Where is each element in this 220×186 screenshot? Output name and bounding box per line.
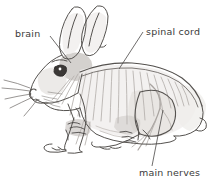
nose-mark (31, 89, 36, 90)
whisker (5, 94, 31, 99)
hind-foot-toe2 (110, 147, 121, 149)
whisker (10, 97, 33, 108)
eye-highlight (59, 68, 62, 71)
whisker (2, 88, 30, 91)
fur-accent (126, 141, 136, 142)
chest-line (68, 104, 74, 120)
chin-line (44, 103, 58, 110)
forepaw-outline (44, 144, 66, 152)
rump-shade (176, 84, 206, 131)
label-brain: brain (15, 28, 40, 39)
label-spinal-cord: spinal cord (146, 26, 200, 37)
second-forepaw (68, 152, 82, 153)
rabbit-diagram-svg: brain spinal cord main nerves (0, 0, 220, 186)
whisker (24, 100, 37, 116)
label-main-nerves: main nerves (139, 167, 200, 178)
rabbit-nervous-system-figure: brain spinal cord main nerves (0, 0, 220, 186)
whisker (4, 80, 30, 88)
eye-outline (54, 65, 67, 76)
